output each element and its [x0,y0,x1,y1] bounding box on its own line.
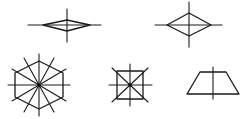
shape-isosceles-trapezoid [187,67,239,99]
shape-rhombus [155,2,222,47]
square-center-dot [128,83,132,87]
regular-hexagon-center-dot [37,83,41,87]
shape-flat-rhombus [28,9,101,42]
shape-regular-hexagon [8,54,70,116]
symmetry-diagram [0,0,243,119]
shape-square [109,64,152,106]
